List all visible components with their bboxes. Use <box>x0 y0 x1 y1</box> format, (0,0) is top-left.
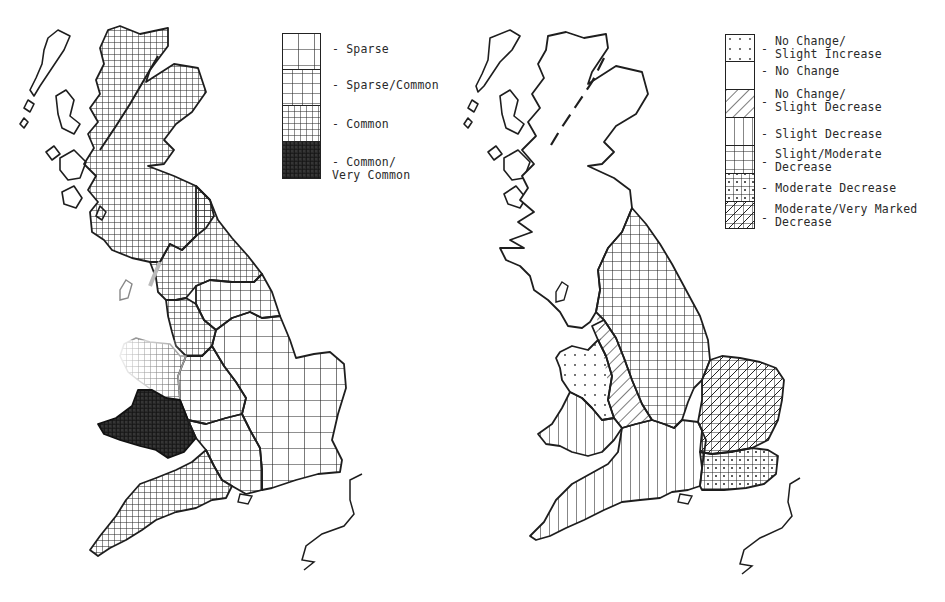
region-south-east-england <box>700 448 778 490</box>
population-change-legend-swatches <box>725 34 757 230</box>
region-south-west-england <box>90 450 232 556</box>
legend-item-slight-decrease: - Slight Decrease <box>761 128 882 141</box>
legend-item-moderate-very-marked-decrease: Moderate/Very Marked Decrease <box>775 203 917 229</box>
abundance-map: - Sparse - Sparse/Common - Common - Comm… <box>0 0 470 602</box>
legend-item-no-change-slight-decrease: No Change/ Slight Decrease <box>775 88 882 114</box>
legend-item-sparse: - Sparse <box>332 43 389 56</box>
france-coast <box>740 478 800 574</box>
legend-item-no-change-slight-increase: No Change/ Slight Increase <box>775 35 882 61</box>
legend-item-moderate-decrease: - Moderate Decrease <box>761 182 896 195</box>
legend-item-no-change: - No Change <box>761 65 839 78</box>
legend-item-sparse-common: - Sparse/Common <box>332 79 439 92</box>
legend-item-slight-moderate-decrease: Slight/Moderate Decrease <box>775 148 882 174</box>
legend-item-common-very-common: - Common/ Very Common <box>332 156 410 182</box>
region-east-anglia <box>698 356 784 454</box>
legend-item-dash: - <box>761 212 768 225</box>
legend-item-common: - Common <box>332 118 389 131</box>
population-change-map: - No Change/ Slight Increase - No Change… <box>460 0 945 602</box>
legend-item-dash: - <box>761 156 768 169</box>
population-change-legend: - No Change/ Slight Increase - No Change… <box>725 34 945 234</box>
legend-item-dash: - <box>761 96 768 109</box>
legend-item-dash: - <box>761 43 768 56</box>
abundance-legend-swatches <box>282 33 322 180</box>
france-coast <box>302 474 362 570</box>
abundance-legend: - Sparse - Sparse/Common - Common - Comm… <box>282 33 452 183</box>
outer-hebrides <box>30 30 70 96</box>
